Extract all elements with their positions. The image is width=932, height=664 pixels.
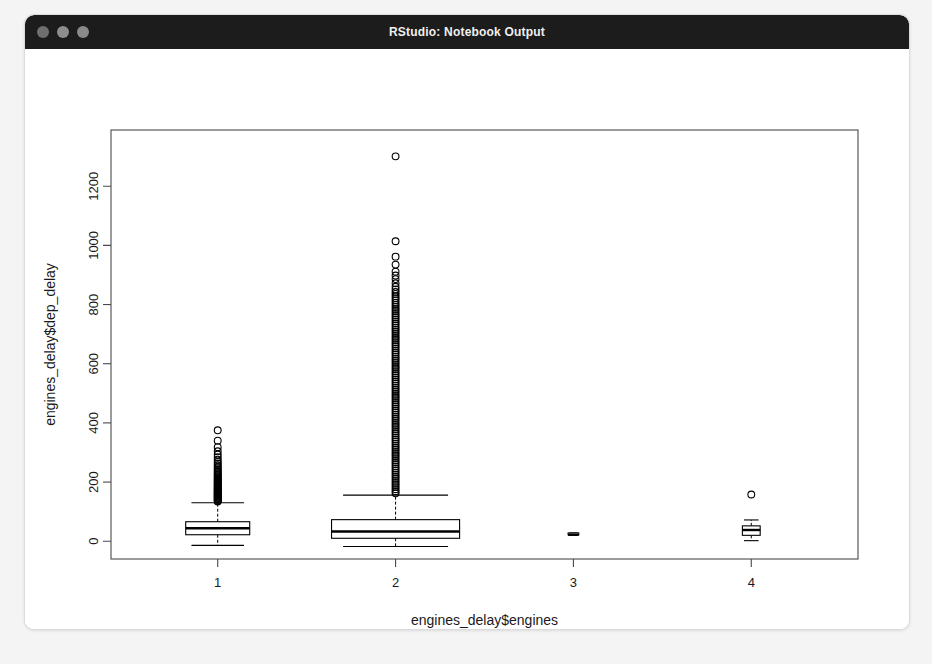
y-tick-label: 200 bbox=[86, 471, 101, 493]
plot-canvas: 020040060080010001200engines_delay$dep_d… bbox=[25, 49, 909, 629]
boxplot-group bbox=[568, 533, 579, 535]
window-title: RStudio: Notebook Output bbox=[25, 25, 909, 39]
close-button-icon[interactable] bbox=[37, 26, 49, 38]
boxplot-figure: 020040060080010001200engines_delay$dep_d… bbox=[25, 49, 909, 629]
window-controls bbox=[37, 15, 89, 49]
zoom-button-icon[interactable] bbox=[77, 26, 89, 38]
x-tick-label: 4 bbox=[748, 575, 755, 590]
y-tick-label: 600 bbox=[86, 353, 101, 375]
minimize-button-icon[interactable] bbox=[57, 26, 69, 38]
y-axis-title: engines_delay$dep_delay bbox=[42, 263, 58, 426]
window-titlebar[interactable]: RStudio: Notebook Output bbox=[25, 15, 909, 49]
y-tick-label: 1000 bbox=[86, 231, 101, 260]
y-tick-label: 1200 bbox=[86, 172, 101, 201]
x-tick-label: 2 bbox=[392, 575, 399, 590]
x-tick-label: 3 bbox=[570, 575, 577, 590]
page-root: RStudio: Notebook Output 020040060080010… bbox=[0, 0, 932, 664]
figure-background bbox=[25, 49, 909, 629]
x-tick-label: 1 bbox=[214, 575, 221, 590]
x-axis-title: engines_delay$engines bbox=[411, 612, 558, 628]
y-tick-label: 800 bbox=[86, 294, 101, 316]
notebook-output-window: RStudio: Notebook Output 020040060080010… bbox=[24, 14, 910, 630]
y-tick-label: 400 bbox=[86, 412, 101, 434]
box-rect bbox=[332, 520, 460, 539]
y-tick-label: 0 bbox=[86, 538, 101, 545]
